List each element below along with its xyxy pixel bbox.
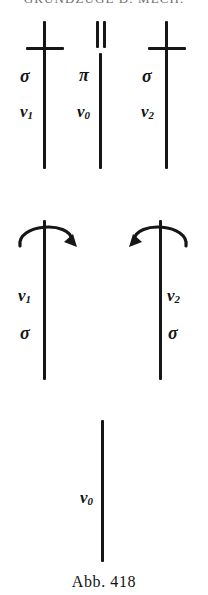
label-v1-col1-sub: 1 [28, 109, 34, 121]
label-v0-bottom-center-sub: 0 [88, 495, 94, 507]
perpendicular-icon-stem-col1 [43, 21, 46, 48]
label-sigma-middle-left: σ [20, 324, 30, 342]
label-v2-middle-right-sub: 2 [175, 293, 181, 305]
running-head: GRUNDZÜGE D. MECH. [0, 0, 208, 7]
rod-col2 [99, 53, 102, 169]
rotation-arrow-clockwise-icon [14, 212, 84, 254]
label-v1-middle-left: v1 [18, 287, 31, 305]
perpendicular-icon-stem-col3 [165, 21, 168, 48]
label-v2-col3: v2 [141, 103, 154, 121]
label-v0-col2-sub: 0 [85, 109, 91, 121]
label-pi-col2: π [79, 66, 89, 84]
label-sigma-middle-right: σ [168, 324, 178, 342]
parallel-icon-stroke-b-col2 [103, 21, 106, 48]
label-v2-col3-sub: 2 [149, 109, 155, 121]
label-v2-col3-base: v [141, 102, 149, 121]
label-v1-col1: v1 [20, 103, 33, 121]
label-v1-middle-left-base: v [18, 286, 26, 305]
label-sigma-col1: σ [20, 67, 30, 85]
label-v0-bottom-center-base: v [80, 488, 88, 507]
label-v1-middle-left-sub: 1 [26, 293, 32, 305]
label-v1-col1-base: v [20, 102, 28, 121]
rod-bottom-center [101, 420, 104, 562]
rod-middle-left [43, 220, 46, 380]
rod-middle-right [159, 220, 162, 380]
label-v2-middle-right-base: v [167, 286, 175, 305]
label-v2-middle-right: v2 [167, 287, 180, 305]
label-v0-bottom-center: v0 [80, 489, 93, 507]
rod-col1 [43, 48, 46, 169]
rod-col3 [165, 48, 168, 169]
rotation-arrow-counterclockwise-icon [122, 212, 192, 254]
label-sigma-col3: σ [142, 67, 152, 85]
label-v0-col2: v0 [77, 103, 90, 121]
figure-caption: Abb. 418 [0, 573, 208, 591]
label-v0-col2-base: v [77, 102, 85, 121]
parallel-icon-stroke-a-col2 [96, 21, 99, 48]
